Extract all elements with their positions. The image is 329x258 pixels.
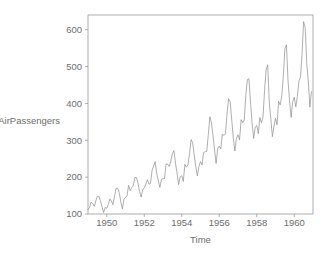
air-passengers-plot: 195019521954195619581960 100200300400500… xyxy=(0,0,329,258)
y-tick-label: 500 xyxy=(66,61,82,72)
y-tick-label: 200 xyxy=(66,171,82,182)
x-tick-label: 1954 xyxy=(171,217,192,228)
x-tick-label: 1960 xyxy=(284,217,305,228)
x-tick-label: 1956 xyxy=(209,217,230,228)
y-tick-label: 600 xyxy=(66,24,82,35)
y-tick-label: 400 xyxy=(66,98,82,109)
plot-background xyxy=(0,0,329,258)
plot-canvas: 195019521954195619581960 100200300400500… xyxy=(0,0,329,258)
y-tick-label: 300 xyxy=(66,135,82,146)
y-axis-title: AirPassengers xyxy=(0,115,60,126)
x-axis-title: Time xyxy=(190,234,211,245)
y-tick-label: 100 xyxy=(66,208,82,219)
x-tick-label: 1950 xyxy=(96,217,117,228)
x-tick-label: 1952 xyxy=(134,217,155,228)
x-tick-label: 1958 xyxy=(246,217,267,228)
